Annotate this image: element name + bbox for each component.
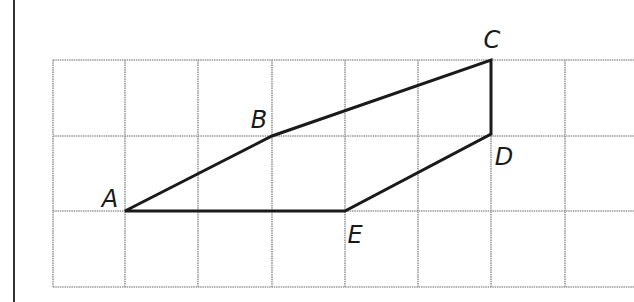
point-label-b: B bbox=[251, 108, 267, 132]
point-label-d: D bbox=[495, 145, 513, 169]
diagram-canvas bbox=[0, 0, 634, 302]
point-label-e: E bbox=[347, 223, 362, 247]
grid-lines bbox=[53, 60, 634, 287]
point-label-a: A bbox=[102, 187, 118, 211]
point-label-c: C bbox=[484, 28, 501, 52]
